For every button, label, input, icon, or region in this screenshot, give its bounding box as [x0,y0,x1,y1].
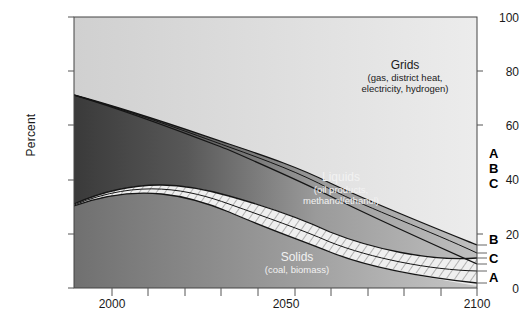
scenario-label-upper-A: A [489,146,498,161]
annotation-grids: Grids (gas, district heat, electricity, … [330,58,480,95]
scenario-label-lower-A: A [489,270,498,285]
annotation-solids-title: Solids [232,250,362,264]
annotation-liquids-line1: (oil products, [268,184,414,195]
annotation-grids-line1: (gas, district heat, [330,72,480,83]
scenario-label-lower-B: B [489,232,498,247]
annotation-solids-line1: (coal, biomass) [232,264,362,275]
figure-stacked-area-energy-shares: Percent 100 80 60 40 20 0 2000 2050 2100 [0,0,519,327]
scenario-label-upper-C: C [489,176,498,191]
annotation-liquids-title: Liquids [268,170,414,184]
plot-area [0,0,519,327]
scenario-label-lower-C: C [489,251,498,266]
annotation-grids-title: Grids [330,58,480,72]
annotation-liquids: Liquids (oil products, methanol/ethanol) [268,170,414,207]
scenario-label-upper-B: B [489,161,498,176]
annotation-grids-line2: electricity, hydrogen) [330,83,480,94]
scenario-leader-lines [477,245,487,283]
annotation-liquids-line2: methanol/ethanol) [268,195,414,206]
annotation-solids: Solids (coal, biomass) [232,250,362,275]
